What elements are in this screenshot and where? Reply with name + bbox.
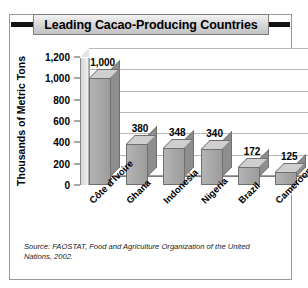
gridline [89,91,308,92]
chart-title: Leading Cacao-Producing Countries [44,18,257,32]
y-axis-tick-label: 200 [28,158,70,169]
y-axis-tick-label: 600 [28,116,70,127]
y-axis-title-text: Thousands of Metric Tons [15,56,27,186]
y-axis-tick-label: 0 [28,180,70,191]
bar-value-label: 172 [244,146,261,157]
y-axis-tick-mark [74,185,80,186]
bar-side-face [111,60,120,176]
y-axis-tick-mark [74,99,80,100]
y-axis-tick-mark [74,142,80,143]
bar-value-label: 380 [132,123,149,134]
source-note: Source: FAOSTAT, Food and Agriculture Or… [24,242,274,262]
bar-c-te-d-ivoire[interactable] [89,78,111,185]
y-axis-title: Thousands of Metric Tons [13,48,29,194]
bar-value-label: 340 [206,128,223,139]
y-axis-tick-label: 400 [28,137,70,148]
y-axis-tick-mark [74,163,80,164]
gridline [89,112,308,113]
plot-top-bevel [80,48,90,58]
gridline [89,69,308,70]
y-axis-tick-mark [74,121,80,122]
plot-area: 02004006008001,0001,200 1,00038034834017… [30,44,288,194]
plot-left-wall [80,57,89,185]
chart-title-banner: Leading Cacao-Producing Countries [9,14,292,36]
y-axis-tick-mark [74,78,80,79]
y-axis-tick-mark [74,57,80,58]
bar-front-face [89,78,111,185]
gridline [89,155,308,156]
plot-floor [80,185,308,195]
bar-value-label: 1,000 [90,57,115,68]
bar-value-label: 125 [281,151,298,162]
bar-value-label: 348 [169,127,186,138]
chart-title-box: Leading Cacao-Producing Countries [33,14,269,35]
gridline [89,48,308,49]
gridline [89,133,308,134]
y-axis-tick-label: 800 [28,94,70,105]
y-axis-tick-label: 1,200 [28,52,70,63]
y-axis-tick-label: 1,000 [28,73,70,84]
